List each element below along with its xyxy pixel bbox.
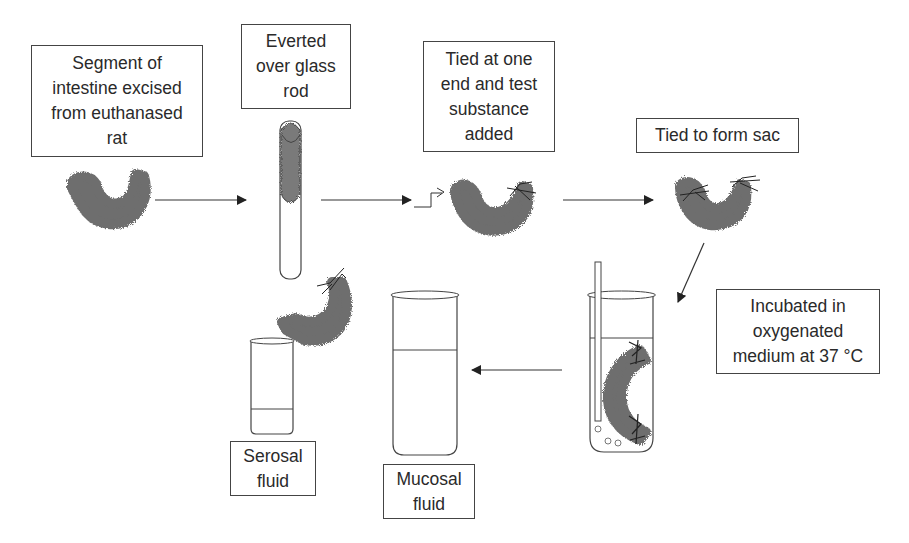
step-tie-one-end-label: Tied at one end and test substance added (423, 41, 555, 152)
step-tie-sac-label: Tied to form sac (636, 118, 799, 153)
add-substance-icon (414, 188, 444, 207)
intestine-segment-icon (72, 174, 146, 224)
step-evert-label: Everted over glass rod (241, 24, 351, 109)
intestine-tied-one-end-icon (455, 182, 536, 231)
serosal-beaker-icon (250, 338, 294, 434)
step-incubate-label: Incubated in oxygenated medium at 37 °C (716, 289, 880, 374)
step-excise-label: Segment of intestine excised from euthan… (31, 45, 203, 157)
serosal-fluid-label: Serosal fluid (230, 441, 316, 496)
mucosal-fluid-label: Mucosal fluid (383, 464, 475, 519)
arrow-sac-to-incubate (678, 243, 704, 302)
intestine-sac-icon (680, 176, 760, 225)
incubation-beaker-icon (588, 262, 656, 452)
glass-rod-icon (280, 121, 301, 279)
mucosal-beaker-icon (391, 291, 459, 455)
